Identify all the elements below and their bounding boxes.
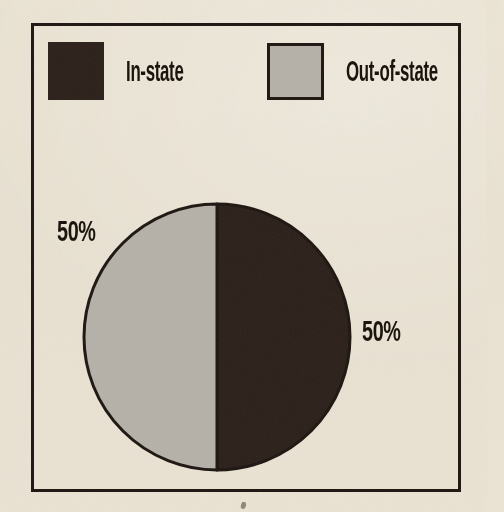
legend-label-in-state: In-state [126, 57, 184, 86]
pie-value-label-out-of-state: 50% [57, 216, 96, 246]
legend-item-in-state: In-state [48, 42, 225, 100]
pie-slice-out-of-state [84, 204, 217, 470]
pie-slice-in-state [217, 204, 350, 470]
legend-swatch-out-of-state-icon [267, 43, 324, 100]
pie-chart [80, 200, 354, 474]
legend-label-out-of-state: Out-of-state [346, 57, 438, 86]
legend-item-out-of-state: Out-of-state [267, 43, 504, 100]
legend-swatch-in-state-icon [48, 42, 104, 100]
stray-ink-mark [240, 501, 247, 509]
chart-frame: In-state Out-of-state 50% 50% [31, 23, 461, 492]
pie-value-label-in-state: 50% [362, 316, 401, 346]
